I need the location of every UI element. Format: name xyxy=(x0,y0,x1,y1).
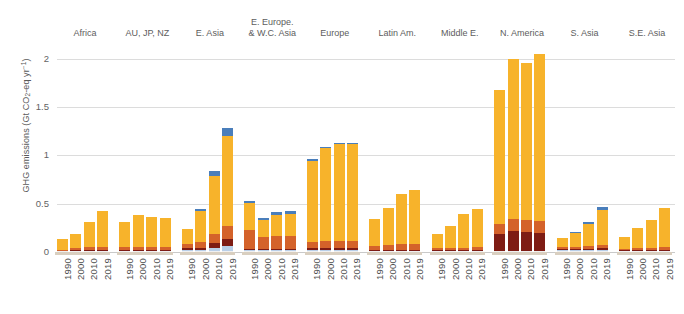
group-label: E. Europe.& W.C. Asia xyxy=(249,17,297,38)
group-baseline xyxy=(367,252,422,255)
bar-2019[interactable] xyxy=(222,128,233,252)
bar-2010[interactable] xyxy=(84,222,95,252)
bar-2010[interactable] xyxy=(396,194,407,252)
bar-segment-segment-1 xyxy=(209,251,220,252)
bar-segment-segment-5 xyxy=(383,208,394,244)
bar-2010[interactable] xyxy=(583,222,594,252)
bar-1990[interactable] xyxy=(557,238,568,252)
bar-segment-segment-1 xyxy=(347,251,358,252)
x-axis-tick-label: 2010 xyxy=(400,258,411,280)
bar-2000[interactable] xyxy=(570,232,581,252)
x-axis-tick-label: 2010 xyxy=(338,258,349,280)
bar-1990[interactable] xyxy=(182,229,193,252)
bar-2000[interactable] xyxy=(445,226,456,252)
bar-segment-segment-4 xyxy=(307,242,318,249)
bar-1990[interactable] xyxy=(244,201,255,252)
group-baseline xyxy=(180,252,235,255)
bar-2019[interactable] xyxy=(285,211,296,252)
bar-2000[interactable] xyxy=(508,59,519,252)
bar-segment-segment-1 xyxy=(646,251,657,252)
bar-segment-segment-3 xyxy=(222,239,233,246)
x-axis-tick-label: 2000 xyxy=(449,258,460,280)
bar-segment-segment-5 xyxy=(557,238,568,247)
bar-2010[interactable] xyxy=(271,212,282,252)
bar-segment-segment-1 xyxy=(222,251,233,252)
bar-group: S. Asia1990200020102019 xyxy=(557,44,613,252)
bar-2000[interactable] xyxy=(195,209,206,252)
bar-segment-segment-4 xyxy=(534,221,545,233)
bar-1990[interactable] xyxy=(432,234,443,252)
bar-2019[interactable] xyxy=(472,209,483,252)
bar-segment-segment-1 xyxy=(472,251,483,252)
bar-segment-segment-3 xyxy=(508,231,519,251)
bar-2010[interactable] xyxy=(458,214,469,252)
y-axis-title: GHG emissions (Gt CO2-eq yr−1) xyxy=(20,46,31,206)
bar-2000[interactable] xyxy=(133,215,144,252)
bar-2000[interactable] xyxy=(258,218,269,252)
bar-2010[interactable] xyxy=(646,220,657,252)
x-axis-tick-label: 2010 xyxy=(150,258,161,280)
x-axis-tick-label: 2019 xyxy=(351,258,362,280)
bar-segment-segment-1 xyxy=(70,251,81,252)
bar-segment-segment-1 xyxy=(383,251,394,252)
bar-2019[interactable] xyxy=(659,208,670,252)
bar-segment-segment-3 xyxy=(534,233,545,251)
bar-1990[interactable] xyxy=(494,90,505,252)
x-axis-tick-label: 2000 xyxy=(324,258,335,280)
bar-2019[interactable] xyxy=(597,207,608,252)
bar-1990[interactable] xyxy=(57,239,68,252)
group-label: S. Asia xyxy=(571,28,599,39)
group-label: Latin Am. xyxy=(378,28,416,39)
bar-segment-segment-5 xyxy=(119,222,130,248)
bar-1990[interactable] xyxy=(119,222,130,252)
bar-segment-segment-4 xyxy=(320,241,331,248)
bar-2010[interactable] xyxy=(334,143,345,252)
bar-2000[interactable] xyxy=(383,208,394,252)
bar-segment-segment-1 xyxy=(244,251,255,252)
bar-segment-segment-1 xyxy=(494,251,505,252)
bar-2019[interactable] xyxy=(160,218,171,252)
x-axis-tick-label: 1990 xyxy=(248,258,259,280)
bar-segment-segment-1 xyxy=(146,251,157,252)
x-axis-tick-label: 1990 xyxy=(186,258,197,280)
bar-2010[interactable] xyxy=(209,171,220,252)
bar-2019[interactable] xyxy=(347,143,358,252)
bar-segment-segment-1 xyxy=(521,251,532,252)
bar-2019[interactable] xyxy=(409,190,420,252)
x-axis-tick-label: 2010 xyxy=(88,258,99,280)
bar-group: S.E. Asia1990200020102019 xyxy=(619,44,675,252)
bar-2010[interactable] xyxy=(521,63,532,252)
bar-2000[interactable] xyxy=(320,147,331,252)
bar-segment-segment-1 xyxy=(271,251,282,252)
group-label: S.E. Asia xyxy=(629,28,666,39)
bar-2000[interactable] xyxy=(632,228,643,252)
bar-segment-segment-4 xyxy=(334,241,345,248)
x-axis-tick-label: 2000 xyxy=(574,258,585,280)
bar-2019[interactable] xyxy=(97,211,108,252)
bar-2019[interactable] xyxy=(534,54,545,252)
bar-1990[interactable] xyxy=(307,159,318,252)
bar-1990[interactable] xyxy=(369,219,380,252)
bar-segment-segment-5 xyxy=(347,144,358,241)
x-axis-tick-label: 1990 xyxy=(436,258,447,280)
bar-1990[interactable] xyxy=(619,237,630,252)
bar-2000[interactable] xyxy=(70,234,81,252)
bar-segment-segment-5 xyxy=(222,136,233,226)
x-axis-tick-label: 2019 xyxy=(538,258,549,280)
x-axis-tick-label: 1990 xyxy=(498,258,509,280)
bar-segment-segment-5 xyxy=(632,228,643,248)
ghg-emissions-chart: GHG emissions (Gt CO2-eq yr−1) 00.511.52… xyxy=(0,0,684,314)
x-axis-tick-label: 1990 xyxy=(373,258,384,280)
bar-segment-segment-1 xyxy=(583,251,594,252)
bar-segment-segment-1 xyxy=(285,251,296,252)
bar-segment-segment-5 xyxy=(583,224,594,246)
bar-segment-segment-1 xyxy=(458,251,469,252)
group-baseline xyxy=(430,252,485,255)
bar-segment-segment-3 xyxy=(521,232,532,251)
x-axis-tick-label: 2019 xyxy=(289,258,300,280)
bar-2010[interactable] xyxy=(146,217,157,252)
bar-segment-segment-1 xyxy=(133,251,144,252)
bar-segment-segment-4 xyxy=(285,236,296,249)
bar-segment-segment-1 xyxy=(632,251,643,252)
plot-area: 00.511.52Africa1990200020102019AU, JP, N… xyxy=(57,44,675,252)
